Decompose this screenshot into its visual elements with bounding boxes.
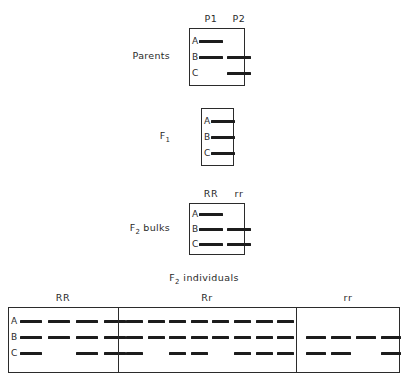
band-group-rr-homozygous-dominant-b-lane1: [20, 336, 42, 339]
band-parents-b-lane1: [199, 56, 223, 59]
band-group-rr-homozygous-dominant-c-lane1: [20, 352, 42, 355]
band-group-rr-homozygous-recessive-b-lane3: [356, 336, 376, 339]
band-group-rr-heterozygous-b-lane8: [277, 336, 294, 339]
band-group-rr-heterozygous-c-lane6: [234, 352, 251, 355]
row-label-bottom-a: A: [11, 317, 17, 326]
band-f2-bulks-b-lane1: [199, 228, 223, 231]
band-parents-c-lane2: [227, 72, 251, 75]
band-group-rr-heterozygous-a-lane4: [191, 320, 208, 323]
bottom-panel-title-tail: individuals: [180, 272, 239, 283]
band-group-rr-homozygous-recessive-b-lane1: [306, 336, 326, 339]
band-group-rr-heterozygous-c-lane4: [191, 352, 208, 355]
band-f1-b-lane1: [211, 136, 235, 139]
group-label-RR: RR: [38, 292, 88, 303]
row-label-a: A: [192, 37, 198, 46]
band-f2-bulks-b-lane2: [227, 228, 251, 231]
band-group-rr-homozygous-recessive-c-lane2: [331, 352, 351, 355]
band-group-rr-heterozygous-a-lane5: [212, 320, 229, 323]
row-label-a: A: [192, 210, 198, 219]
group-divider-2: [296, 307, 297, 373]
row-label-c: C: [192, 69, 198, 78]
band-group-rr-homozygous-dominant-c-lane3: [76, 352, 98, 355]
row-label-c: C: [204, 149, 210, 158]
row-label-b: B: [192, 225, 198, 234]
band-group-rr-homozygous-recessive-c-lane4: [381, 352, 401, 355]
row-label-bottom-b: B: [11, 333, 17, 342]
band-f2-bulks-c-lane2: [227, 243, 251, 246]
band-group-rr-homozygous-recessive-b-lane2: [331, 336, 351, 339]
group-divider-1: [118, 307, 119, 373]
band-group-rr-heterozygous-c-lane8: [277, 352, 294, 355]
band-parents-b-lane2: [227, 56, 251, 59]
band-group-rr-heterozygous-a-lane1: [126, 320, 143, 323]
row-label-bottom-c: C: [11, 349, 17, 358]
band-group-rr-heterozygous-b-lane7: [256, 336, 273, 339]
band-group-rr-homozygous-dominant-a-lane1: [20, 320, 42, 323]
column-header-rr: rr: [221, 188, 257, 199]
row-label-a: A: [204, 117, 210, 126]
band-group-rr-heterozygous-b-lane4: [191, 336, 208, 339]
band-group-rr-heterozygous-b-lane1: [126, 336, 143, 339]
band-group-rr-homozygous-recessive-c-lane1: [306, 352, 326, 355]
band-group-rr-homozygous-dominant-b-lane4: [104, 336, 126, 339]
band-group-rr-heterozygous-c-lane3: [169, 352, 186, 355]
panel-label-f2-bulks: F2 bulks: [60, 222, 170, 236]
band-group-rr-homozygous-dominant-a-lane4: [104, 320, 126, 323]
group-label-Rr: Rr: [182, 292, 232, 303]
panel-label-f1: F1: [60, 130, 170, 144]
band-group-rr-heterozygous-a-lane8: [277, 320, 294, 323]
band-group-rr-homozygous-dominant-b-lane2: [48, 336, 70, 339]
band-group-rr-heterozygous-a-lane6: [234, 320, 251, 323]
column-header-p2: P2: [221, 13, 257, 24]
band-f2-bulks-c-lane1: [199, 243, 223, 246]
band-group-rr-heterozygous-a-lane2: [148, 320, 165, 323]
band-group-rr-heterozygous-c-lane1: [126, 352, 143, 355]
panel-label-tail: bulks: [140, 222, 170, 233]
band-group-rr-heterozygous-a-lane3: [169, 320, 186, 323]
row-label-b: B: [192, 53, 198, 62]
figure-canvas: ParentsP1P2ABCF1ABCF2 bulksRRrrABCF2 ind…: [0, 0, 408, 382]
band-group-rr-homozygous-dominant-b-lane3: [76, 336, 98, 339]
band-group-rr-homozygous-recessive-b-lane4: [381, 336, 401, 339]
gel-box-f2-individuals: [8, 307, 400, 373]
band-f1-c-lane1: [211, 152, 235, 155]
panel-label-parents: Parents: [60, 50, 170, 61]
bottom-panel-title: F2 individuals: [124, 272, 284, 286]
panel-label-subscript: 1: [166, 136, 170, 144]
band-group-rr-heterozygous-a-lane7: [256, 320, 273, 323]
band-parents-a-lane1: [199, 40, 223, 43]
band-group-rr-homozygous-dominant-a-lane3: [76, 320, 98, 323]
band-group-rr-heterozygous-b-lane6: [234, 336, 251, 339]
group-label-rr: rr: [323, 292, 373, 303]
band-group-rr-homozygous-dominant-c-lane4: [104, 352, 126, 355]
panel-label-text: Parents: [133, 50, 170, 61]
row-label-b: B: [204, 133, 210, 142]
row-label-c: C: [192, 240, 198, 249]
band-group-rr-heterozygous-b-lane3: [169, 336, 186, 339]
band-group-rr-heterozygous-b-lane5: [212, 336, 229, 339]
band-f1-a-lane1: [211, 120, 235, 123]
band-group-rr-heterozygous-b-lane2: [148, 336, 165, 339]
band-group-rr-homozygous-dominant-a-lane2: [48, 320, 70, 323]
band-f2-bulks-a-lane1: [199, 213, 223, 216]
band-group-rr-heterozygous-c-lane7: [256, 352, 273, 355]
